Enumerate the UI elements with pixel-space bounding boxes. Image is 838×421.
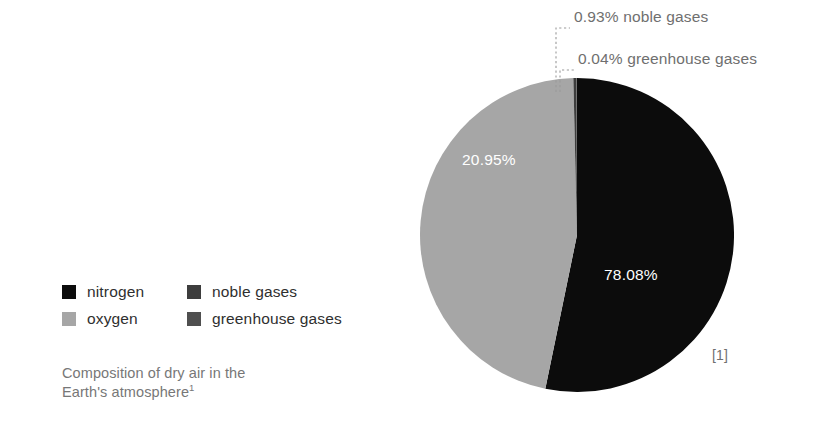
citation-marker[interactable]: [1] <box>712 347 728 363</box>
legend-item-noble-gases[interactable]: noble gases <box>187 283 297 301</box>
pie-chart: 78.08% 20.95% <box>420 78 734 392</box>
legend-item-greenhouse-gases[interactable]: greenhouse gases <box>187 310 342 328</box>
pie-slice-oxygen[interactable] <box>420 78 577 389</box>
leader-line-noble-gases <box>556 28 570 92</box>
legend-label-nitrogen: nitrogen <box>87 283 144 301</box>
legend-item-nitrogen[interactable]: nitrogen <box>62 283 187 301</box>
caption-footnote-marker: 1 <box>189 382 194 393</box>
leader-line-greenhouse-gases <box>560 70 574 92</box>
legend-swatch-oxygen <box>62 312 76 326</box>
legend-row: oxygen greenhouse gases <box>62 305 362 332</box>
legend-swatch-nitrogen <box>62 285 76 299</box>
figure-caption: Composition of dry air in the Earth's at… <box>62 364 245 402</box>
callout-greenhouse-gases: 0.04% greenhouse gases <box>578 50 757 68</box>
caption-line-1: Composition of dry air in the <box>62 364 245 383</box>
caption-line-2: Earth's atmosphere1 <box>62 383 245 402</box>
caption-line-2-text: Earth's atmosphere <box>62 384 189 400</box>
legend-swatch-noble-gases <box>187 285 201 299</box>
callout-noble-gases: 0.93% noble gases <box>574 8 708 26</box>
pie-svg <box>420 78 734 392</box>
legend: nitrogen noble gases oxygen greenhouse g… <box>62 278 362 332</box>
legend-label-greenhouse-gases: greenhouse gases <box>212 310 342 328</box>
legend-item-oxygen[interactable]: oxygen <box>62 310 187 328</box>
legend-label-oxygen: oxygen <box>87 310 138 328</box>
pie-chart-figure: 78.08% 20.95% 0.93% noble gases 0.04% gr… <box>0 0 838 421</box>
legend-swatch-greenhouse-gases <box>187 312 201 326</box>
legend-label-noble-gases: noble gases <box>212 283 297 301</box>
legend-row: nitrogen noble gases <box>62 278 362 305</box>
